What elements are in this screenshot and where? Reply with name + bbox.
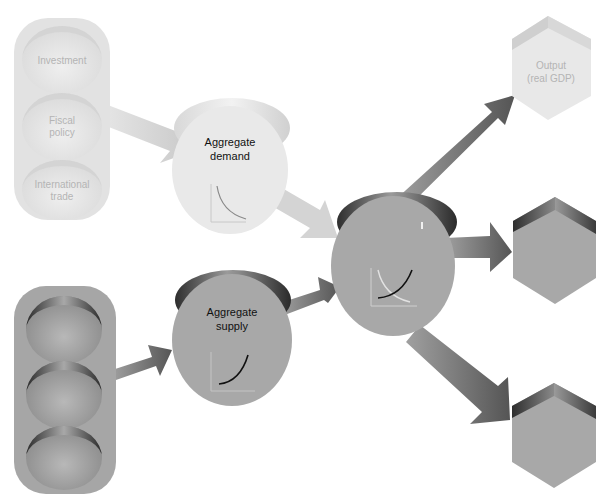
outcome-label: Output (536, 60, 566, 71)
demand-factor-label: International (34, 179, 89, 190)
aggregate-supply-label: supply (216, 320, 248, 332)
aggregate-demand-node[interactable]: Aggregate demand (172, 98, 290, 234)
demand-factors-group: Investment Fiscal policy International t… (14, 18, 110, 220)
aggregate-demand-label: demand (210, 150, 250, 162)
highlight-mark (421, 222, 423, 229)
supply-factor-1[interactable] (26, 296, 102, 364)
outcome-label: (real GDP) (527, 73, 575, 84)
aggregate-demand-label: Aggregate (205, 136, 256, 148)
arrow-equilibrium-to-outcome-3 (406, 325, 510, 424)
supply-factor-3[interactable] (26, 426, 102, 490)
outcome-2[interactable] (513, 197, 596, 304)
aggregate-supply-node[interactable]: Aggregate supply (172, 270, 292, 406)
demand-factor-label: trade (51, 191, 74, 202)
supply-factors-group (14, 286, 116, 494)
outcome-output-real-gdp[interactable]: Output (real GDP) (512, 16, 591, 120)
arrow-equilibrium-to-output (395, 95, 515, 210)
demand-factor-label: Fiscal (49, 115, 75, 126)
demand-factor-label: Investment (38, 55, 87, 66)
outcome-3[interactable] (512, 383, 596, 488)
demand-factor-international-trade[interactable]: International trade (22, 160, 102, 220)
supply-factor-2[interactable] (26, 361, 102, 429)
equilibrium-node[interactable] (331, 192, 457, 336)
macroeconomic-flow-diagram: Investment Fiscal policy International t… (0, 0, 607, 500)
demand-factor-label: policy (49, 127, 75, 138)
aggregate-supply-label: Aggregate (207, 306, 258, 318)
arrow-supply-factors-to-as (112, 345, 172, 380)
demand-factor-investment[interactable]: Investment (22, 26, 102, 94)
demand-factor-fiscal-policy[interactable]: Fiscal policy (22, 93, 102, 161)
